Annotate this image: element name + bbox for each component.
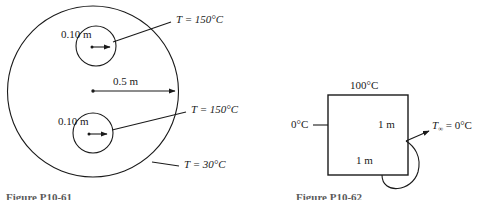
leader-upper-hole <box>113 22 171 42</box>
figure-right-caption: Figure P10-62 <box>296 192 362 200</box>
ambient-temperature-value: 0°C <box>455 119 472 131</box>
ambient-temperature-equals: = <box>446 119 452 131</box>
square-left-temperature-label: 0°C <box>291 119 308 130</box>
square-side-dimension-label: 1 m <box>378 119 395 130</box>
figure-sheet: 0.10 m 0.10 m 0.5 m T = 150°C T = 150°C … <box>0 0 484 200</box>
outer-boundary-temperature-label: T = 30°C <box>184 159 226 170</box>
leader-lower-hole <box>112 112 186 130</box>
leader-outer-circle <box>152 162 179 166</box>
leader-ambient-curve <box>382 141 419 189</box>
square-top-temperature-label: 100°C <box>350 80 378 91</box>
lower-hole-radius-arrow <box>88 133 108 136</box>
leader-ambient-tail <box>406 131 429 141</box>
ambient-temperature-label: T∞ = 0°C <box>432 120 472 132</box>
radius-dimension-label: 0.5 m <box>113 76 138 87</box>
ambient-temperature-subscript: ∞ <box>438 125 443 132</box>
radius-dimension-arrow <box>91 89 175 92</box>
upper-hole-temperature-label: T = 150°C <box>176 14 223 25</box>
lower-hole-dimension-label: 0.10 m <box>58 116 89 127</box>
lower-hole-temperature-label: T = 150°C <box>191 104 238 115</box>
figure-left-caption: Figure P10-61 <box>6 192 72 200</box>
upper-hole-radius-arrow <box>91 46 111 49</box>
upper-hole-dimension-label: 0.10 m <box>61 29 92 40</box>
square-bottom-dimension-label: 1 m <box>356 155 373 166</box>
